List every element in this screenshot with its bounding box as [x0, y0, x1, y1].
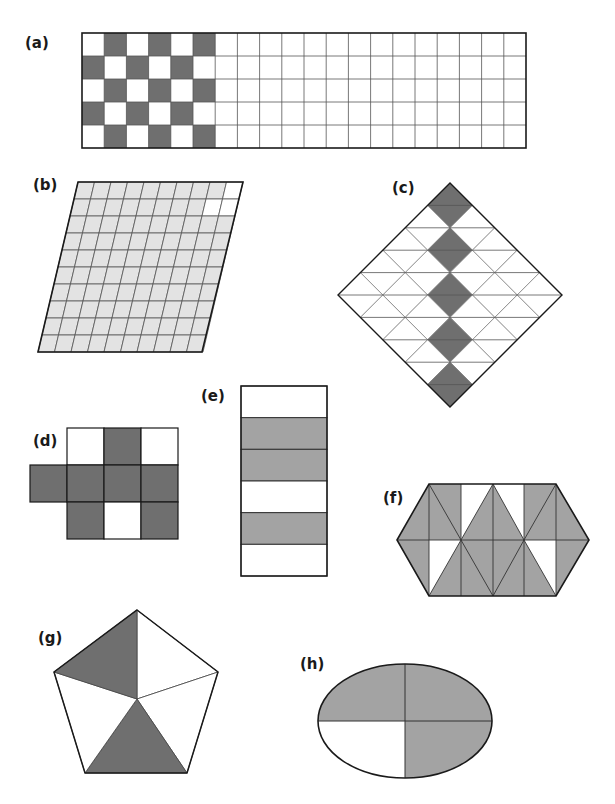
shaded-cell: [67, 465, 104, 502]
shaded-cell: [104, 125, 126, 148]
shaded-cell: [82, 102, 104, 125]
unshaded-strip: [241, 386, 327, 418]
shaded-cell: [104, 79, 126, 102]
shaded-strip: [241, 449, 327, 481]
figure-h-ellipse: [318, 664, 492, 778]
unshaded-strip: [241, 481, 327, 513]
figure-sheet: (a) (b) (c) (d) (e) (f) (g) (h): [0, 0, 615, 804]
quadrant-bottom-left: [318, 721, 405, 778]
quadrant-top-left: [318, 664, 405, 721]
shaded-cell: [171, 102, 193, 125]
shaded-cell: [30, 465, 67, 502]
figure-b-parallelogram-grid: [38, 182, 243, 352]
quadrant-top-right: [405, 664, 492, 721]
label-a: (a): [25, 36, 49, 51]
figure-c-diamond-grid: [338, 183, 562, 407]
label-c: (c): [392, 181, 415, 196]
unshaded-strip: [241, 544, 327, 576]
label-d: (d): [33, 434, 57, 449]
label-e: (e): [201, 389, 225, 404]
shaded-cell: [171, 56, 193, 79]
quadrant-bottom-right: [405, 721, 492, 778]
label-b: (b): [33, 178, 57, 193]
shaded-cell: [67, 502, 104, 539]
shaded-cell: [141, 465, 178, 502]
shaded-cell: [149, 33, 171, 56]
shaded-strip: [241, 513, 327, 545]
figure-e-strips: [241, 386, 327, 576]
label-f: (f): [383, 491, 403, 506]
shaded-cell: [149, 125, 171, 148]
shaded-cell: [193, 125, 215, 148]
shaded-cell: [104, 428, 141, 465]
shaded-cell: [126, 102, 148, 125]
shaded-cell: [82, 56, 104, 79]
figures-canvas: [0, 0, 615, 804]
label-g: (g): [38, 631, 62, 646]
unshaded-cell: [67, 428, 104, 465]
shaded-cell: [104, 465, 141, 502]
label-h: (h): [300, 657, 324, 672]
figure-f-hexagon: [397, 484, 589, 596]
shaded-strip: [241, 418, 327, 450]
unshaded-cell: [141, 428, 178, 465]
shaded-cell: [141, 502, 178, 539]
shaded-cell: [104, 33, 126, 56]
shaded-cell: [149, 79, 171, 102]
shaded-cell: [193, 79, 215, 102]
figure-a-checkerboard-grid: [82, 33, 526, 148]
figure-g-pentagon: [54, 610, 218, 773]
shaded-cell: [126, 56, 148, 79]
unshaded-cell: [104, 502, 141, 539]
shaded-cell: [193, 33, 215, 56]
